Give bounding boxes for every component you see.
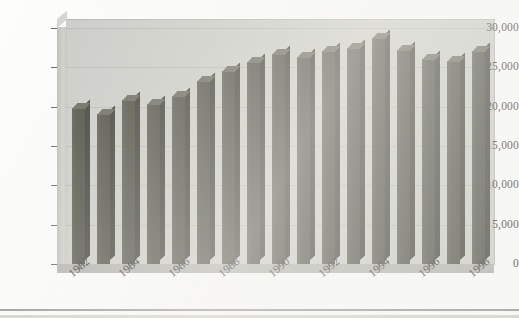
bar-side-face [260,53,265,260]
bar-front-face [297,57,310,264]
bar-1982 [72,108,85,264]
chart-page: 05,00010,00015,00020,00025,00030,000 198… [0,0,519,318]
bar-front-face [147,104,160,264]
bar-front-face [172,96,185,264]
bar-side-face [210,72,215,260]
bar-side-face [285,45,290,260]
bar-side-face [385,30,390,260]
bar-side-face [135,92,140,260]
bar-1994 [372,38,385,264]
y-tick-mark-15000 [51,146,57,147]
bar-front-face [422,59,435,264]
y-tick-mark-0 [51,264,57,265]
y-tick-mark-5000 [51,225,57,226]
bar-side-face [360,40,365,260]
bar-front-face [272,54,285,264]
bar-1985 [147,104,160,264]
bar-front-face [72,108,85,264]
bar-side-face [485,42,490,260]
bar-side-face [335,42,340,260]
bar-front-face [197,81,210,264]
bar-side-face [310,49,315,260]
bar-side-face [85,100,90,260]
bar-front-face [397,50,410,264]
bar-1990 [272,54,285,264]
y-tick-mark-20000 [51,107,57,108]
y-tick-label-30000: 30,000 [467,21,519,33]
bar-1984 [122,100,135,264]
bar-1993 [347,48,360,264]
bar-front-face [372,38,385,264]
bar-front-face [322,51,335,264]
bar-side-face [460,53,465,260]
bar-front-face [347,48,360,264]
y-tick-mark-30000 [51,28,57,29]
bar-side-face [110,105,115,260]
bar-front-face [472,51,485,264]
bar-1992 [322,51,335,264]
bar-front-face [447,61,460,264]
bar-1995 [397,50,410,264]
bar-front-face [222,71,235,264]
bar-chart-figure: 05,00010,00015,00020,00025,00030,000 198… [0,0,519,318]
bar-side-face [435,50,440,260]
bar-1988 [222,71,235,264]
bar-1997 [447,61,460,264]
bar-1989 [247,62,260,264]
bar-1996 [422,59,435,264]
y-tick-mark-25000 [51,67,57,68]
bar-side-face [235,63,240,260]
bar-1983 [97,114,110,264]
y-tick-mark-10000 [51,185,57,186]
bar-front-face [122,100,135,264]
bar-side-face [160,95,165,260]
bar-side-face [410,42,415,260]
bar-1991 [297,57,310,264]
plot-left-wall [57,27,67,272]
bar-1998 [472,51,485,264]
bar-front-face [97,114,110,264]
bar-1987 [197,81,210,264]
bar-side-face [185,87,190,260]
gridline-30000 [66,28,494,29]
bar-front-face [247,62,260,264]
page-bottom-rule [0,309,519,311]
bar-1986 [172,96,185,264]
